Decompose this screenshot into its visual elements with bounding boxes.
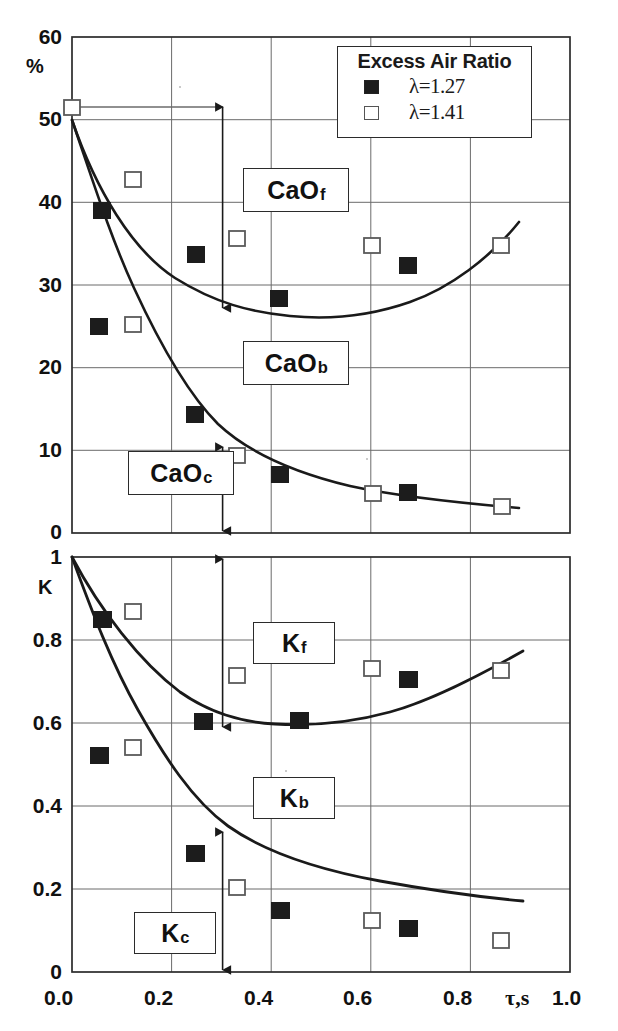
x-axis-title: τ,s	[505, 985, 529, 1011]
annotation-kb-text: K	[280, 784, 298, 813]
annotation-caoc-text: CaO	[150, 459, 202, 488]
top-ytick-30: 30	[6, 273, 62, 297]
legend-entry-label: λ=1.41	[409, 100, 465, 125]
scan-speckle	[366, 458, 368, 460]
top-upper-fit-curve	[72, 120, 519, 317]
annotation-caob-text: CaO	[265, 349, 317, 378]
scan-speckle	[179, 86, 181, 88]
legend-open-square-icon	[364, 106, 379, 120]
legend-entry-lambda-127: λ=1.27	[338, 74, 531, 99]
bottom-panel-gridlines-vertical	[172, 557, 471, 972]
bottom-ytick-06: 0.6	[0, 711, 62, 735]
xtick-0.0: 0.0	[44, 986, 73, 1010]
top-ytick-50: 50	[6, 107, 62, 131]
bottom-panel	[72, 557, 570, 972]
annotation-caob-sub: b	[318, 358, 328, 377]
annotation-kf-text: K	[282, 629, 300, 658]
bottom-ytick-04: 0.4	[0, 794, 62, 818]
annotation-caof: CaOf	[243, 168, 349, 212]
bottom-y-unit-label: K	[38, 576, 52, 599]
top-ytick-60: 60	[6, 25, 62, 49]
xtick-0.8: 0.8	[443, 986, 472, 1010]
top-y-unit-label: %	[26, 55, 44, 78]
figure-root: 60 % 50 40 30 20 10 0 1 K 0.8 0.6 0.4 0.…	[0, 0, 618, 1031]
annotation-kf: Kf	[253, 622, 335, 664]
top-ytick-40: 40	[6, 190, 62, 214]
top-ytick-10: 10	[6, 438, 62, 462]
xtick-1.0: 1.0	[552, 986, 581, 1010]
legend-entry-label: λ=1.27	[409, 74, 465, 99]
annotation-kc: Kc	[134, 912, 216, 954]
xtick-0.4: 0.4	[244, 986, 273, 1010]
legend-entry-lambda-141: λ=1.41	[338, 100, 531, 125]
plot-canvas	[0, 0, 618, 1031]
bottom-ytick-02: 0.2	[0, 877, 62, 901]
annotation-caof-sub: f	[320, 185, 326, 204]
annotation-caoc: CaOc	[128, 451, 234, 495]
annotation-kb-sub: b	[299, 793, 309, 812]
top-ytick-20: 20	[6, 355, 62, 379]
xtick-0.6: 0.6	[343, 986, 372, 1010]
bottom-ytick-08: 0.8	[0, 628, 62, 652]
annotation-kf-sub: f	[301, 638, 307, 657]
bottom-panel-frame	[72, 557, 570, 972]
annotation-kb: Kb	[253, 777, 335, 819]
scan-speckle	[285, 770, 287, 772]
top-ytick-0: 0	[6, 520, 62, 544]
annotation-caof-text: CaO	[267, 176, 319, 205]
legend-filled-square-icon	[364, 80, 379, 94]
annotation-kc-text: K	[161, 919, 179, 948]
annotation-kc-sub: c	[180, 928, 189, 947]
legend-title: Excess Air Ratio	[338, 50, 531, 73]
annotation-caoc-sub: c	[203, 468, 212, 487]
xtick-0.2: 0.2	[144, 986, 173, 1010]
bottom-ytick-0: 0	[6, 960, 62, 984]
annotation-caob: CaOb	[243, 341, 349, 385]
legend-box: Excess Air Ratio λ=1.27 λ=1.41	[337, 46, 532, 138]
bottom-ytick-1: 1	[6, 545, 62, 569]
